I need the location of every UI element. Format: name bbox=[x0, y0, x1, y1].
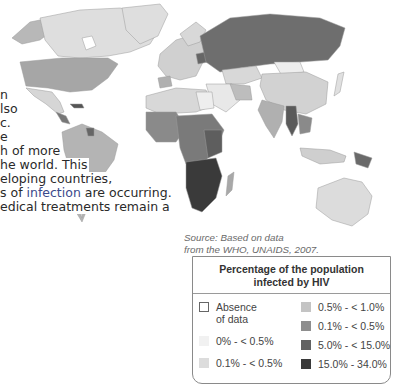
swatch-high-icon bbox=[301, 340, 311, 350]
legend-label: 5.0% - < 15.0% bbox=[318, 339, 390, 351]
source-line: from the WHO, UNAIDS, 2007. bbox=[184, 244, 384, 256]
region-iberia bbox=[158, 76, 172, 88]
region-myanmar bbox=[286, 106, 298, 136]
legend-title: Percentage of the population infected by… bbox=[193, 257, 390, 294]
legend-label-line: of data bbox=[216, 313, 248, 325]
region-madagascar bbox=[226, 172, 234, 196]
region-png bbox=[354, 152, 372, 168]
region-usa bbox=[20, 58, 118, 92]
swatch-mid-low-icon bbox=[301, 302, 311, 312]
region-india bbox=[258, 100, 284, 138]
legend-label: 0.1% - < 0.5% bbox=[318, 320, 384, 332]
region-caribbean bbox=[70, 104, 84, 108]
region-australia bbox=[316, 178, 372, 226]
region-southern-africa bbox=[186, 158, 222, 212]
swatch-no-data-icon bbox=[199, 302, 209, 312]
legend-label: Absence of data bbox=[216, 301, 257, 325]
legend-label-line: Absence bbox=[216, 301, 257, 313]
region-mexico bbox=[26, 88, 64, 114]
region-japan bbox=[334, 72, 344, 96]
legend-label: 0.1% - < 0.5% bbox=[216, 357, 282, 369]
legend-label: 0% - < 0.5% bbox=[216, 335, 274, 347]
region-indochina bbox=[298, 114, 312, 134]
world-hiv-map bbox=[0, 0, 393, 235]
legend-label: 0.5% - < 1.0% bbox=[318, 301, 384, 313]
map-source-caption: Source: Based on data from the WHO, UNAI… bbox=[184, 232, 384, 256]
legend-title-line: infected by HIV bbox=[193, 276, 390, 289]
source-line: Source: Based on data bbox=[184, 232, 384, 244]
legend-title-line: Percentage of the population bbox=[193, 263, 390, 276]
region-central-america bbox=[56, 112, 70, 124]
swatch-very-high-icon bbox=[301, 359, 311, 369]
swatch-mid-icon bbox=[301, 321, 311, 331]
region-indonesia bbox=[300, 148, 346, 164]
region-south-america bbox=[62, 124, 118, 222]
swatch-very-low-icon bbox=[199, 336, 209, 346]
region-russia bbox=[200, 14, 345, 72]
swatch-low-icon bbox=[199, 358, 209, 368]
legend-label: 15.0% - 34.0% bbox=[318, 358, 387, 370]
map-legend: Percentage of the population infected by… bbox=[192, 256, 391, 384]
